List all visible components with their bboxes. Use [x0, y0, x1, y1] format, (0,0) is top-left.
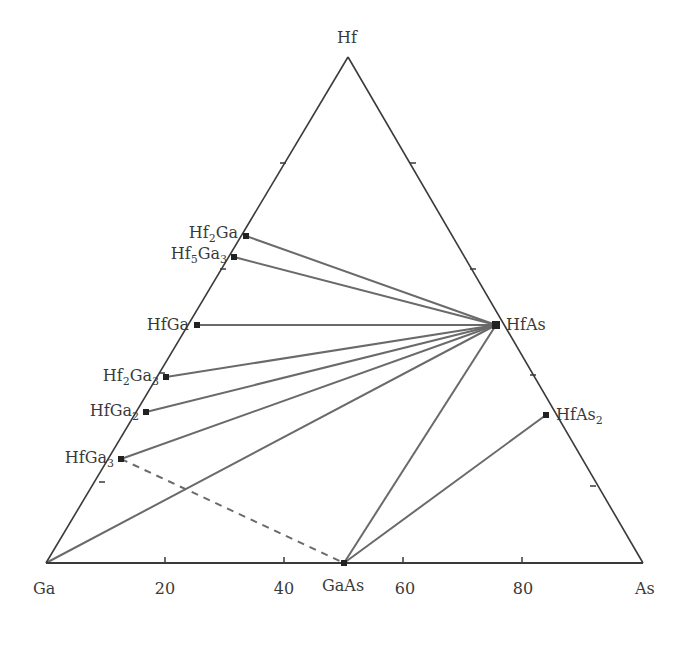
phase-label-hf5ga3: Hf5Ga3: [171, 246, 227, 262]
phase-label-hf2ga3: Hf2Ga3: [103, 368, 159, 384]
vertex-label-as: As: [635, 581, 655, 597]
axis-tick-label-60: 60: [395, 581, 415, 597]
point-hfga3: [118, 456, 124, 462]
tie-line-hf5ga3-hfas: [234, 257, 496, 325]
ternary-phase-diagram: Hf Ga As 20 40 60 80 Hf2Ga Hf5Ga3 HfGa H…: [0, 0, 682, 668]
phase-label-hfga3: HfGa3: [65, 450, 114, 466]
tie-line-hfga3-hfas: [121, 325, 496, 459]
point-hfga: [194, 322, 200, 328]
tie-line-gaas-hfas: [344, 325, 496, 563]
point-hfas: [492, 321, 500, 329]
tie-lines: [46, 236, 546, 563]
vertex-label-ga: Ga: [33, 581, 55, 597]
axis-tick-label-40: 40: [274, 581, 294, 597]
edge-ga-hf: [46, 57, 348, 563]
point-hfga2: [143, 409, 149, 415]
triangle-frame: [46, 57, 643, 563]
phase-label-hfga: HfGa: [147, 317, 189, 333]
tie-line-hf2ga-hfas: [246, 236, 496, 325]
phase-label-hfga2: HfGa2: [90, 403, 139, 419]
point-hfas2: [543, 412, 549, 418]
phase-label-gaas: GaAs: [322, 578, 364, 594]
point-hf5ga3: [231, 254, 237, 260]
point-hf2ga3: [163, 374, 169, 380]
tie-line-hfga2-hfas: [146, 325, 496, 412]
axis-tick-label-20: 20: [155, 581, 175, 597]
axis-tick-label-80: 80: [513, 581, 533, 597]
point-hf2ga: [243, 233, 249, 239]
axis-ticks: [99, 163, 596, 563]
phase-label-hfas2: HfAs2: [556, 407, 603, 423]
vertex-label-hf: Hf: [337, 30, 357, 46]
tie-line-hfga3-gaas-dashed: [121, 459, 344, 563]
tie-line-gaas-hfas2: [344, 415, 546, 563]
phase-label-hfas: HfAs: [506, 317, 546, 333]
point-gaas: [341, 560, 347, 566]
phase-label-hf2ga: Hf2Ga: [189, 225, 238, 241]
diagram-canvas: [0, 0, 682, 668]
